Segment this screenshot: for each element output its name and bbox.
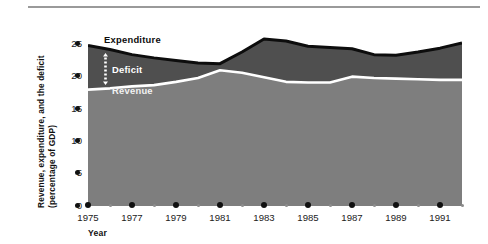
- x-tick-label-1983: 1983: [244, 212, 284, 223]
- stacked-area-series: [88, 30, 462, 206]
- x-tick-dot-1987: [349, 202, 355, 208]
- y-tick-dot-10: [75, 138, 80, 143]
- x-tick-dot-1991: [437, 202, 443, 208]
- series-label-revenue: Revenue: [112, 85, 153, 96]
- x-tick-minor-1980: [197, 204, 200, 207]
- x-tick-dot-1977: [129, 202, 135, 208]
- x-axis-line: [88, 205, 462, 208]
- x-tick-dot-1985: [305, 202, 311, 208]
- x-tick-label-1987: 1987: [332, 212, 372, 223]
- x-axis-title: Year: [88, 228, 107, 238]
- x-tick-minor-1984: [285, 204, 288, 207]
- x-tick-label-1985: 1985: [288, 212, 328, 223]
- x-tick-dot-1983: [261, 202, 267, 208]
- plot-area: [88, 30, 462, 206]
- series-label-expenditure: Expenditure: [104, 34, 161, 45]
- y-axis-ticks: 25 20 15 10 5 0: [18, 0, 82, 244]
- x-tick-label-1975: 1975: [68, 212, 108, 223]
- y-tick-dot-15: [75, 106, 80, 111]
- figure-chart-area: Revenue, expenditure, and the deficit (p…: [0, 0, 488, 244]
- top-divider-rule: [28, 6, 480, 8]
- x-tick-minor-1992: [461, 204, 464, 207]
- x-tick-dot-1975: [85, 202, 91, 208]
- x-tick-minor-1990: [417, 204, 420, 207]
- x-tick-dot-1981: [217, 202, 223, 208]
- y-tick-dot-0: [75, 203, 80, 208]
- x-tick-minor-1976: [109, 204, 112, 207]
- x-tick-dot-1989: [393, 202, 399, 208]
- dotted-double-arrow-icon: [103, 53, 108, 85]
- y-tick-dot-25: [75, 41, 80, 46]
- x-tick-minor-1988: [373, 204, 376, 207]
- x-tick-minor-1982: [241, 204, 244, 207]
- x-tick-label-1977: 1977: [112, 212, 152, 223]
- x-tick-label-1981: 1981: [200, 212, 240, 223]
- x-tick-label-1979: 1979: [156, 212, 196, 223]
- y-tick-dot-5: [75, 170, 80, 175]
- x-tick-minor-1978: [153, 204, 156, 207]
- x-tick-minor-1986: [329, 204, 332, 207]
- x-tick-dot-1979: [173, 202, 179, 208]
- series-label-deficit: Deficit: [112, 64, 142, 75]
- y-tick-dot-20: [75, 73, 80, 78]
- x-tick-label-1989: 1989: [376, 212, 416, 223]
- x-tick-label-1991: 1991: [420, 212, 460, 223]
